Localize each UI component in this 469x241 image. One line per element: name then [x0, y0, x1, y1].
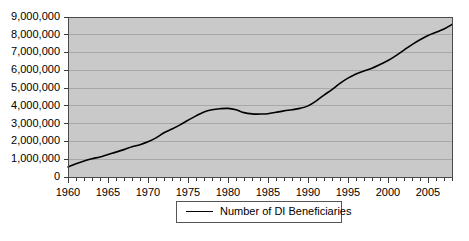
y-tick-label: 3,000,000	[11, 117, 60, 129]
x-tick-label: 2005	[416, 186, 440, 198]
y-tick-label: 5,000,000	[11, 81, 60, 93]
y-tick-label: 4,000,000	[11, 99, 60, 111]
y-tick-label: 2,000,000	[11, 134, 60, 146]
y-tick-label: 0	[54, 170, 60, 182]
y-tick-label: 9,000,000	[11, 10, 60, 22]
y-tick-label: 7,000,000	[11, 45, 60, 57]
di-beneficiaries-line-chart: 01,000,0002,000,0003,000,0004,000,0005,0…	[0, 0, 469, 241]
x-tick-label: 1965	[96, 186, 120, 198]
y-tick-label: 6,000,000	[11, 63, 60, 75]
chart-container: 01,000,0002,000,0003,000,0004,000,0005,0…	[0, 0, 469, 241]
plot-area-background	[68, 17, 452, 177]
x-tick-label: 1975	[176, 186, 200, 198]
legend: Number of DI Beneficiaries	[176, 201, 352, 222]
x-tick-label: 1990	[296, 186, 320, 198]
x-tick-label: 2000	[376, 186, 400, 198]
y-tick-label: 8,000,000	[11, 28, 60, 40]
x-tick-label: 1980	[216, 186, 240, 198]
x-tick-label: 1970	[136, 186, 160, 198]
x-tick-label: 1985	[256, 186, 280, 198]
x-tick-label: 1995	[336, 186, 360, 198]
x-tick-label: 1960	[56, 186, 80, 198]
legend-label-di-beneficiaries: Number of DI Beneficiaries	[220, 205, 352, 217]
y-tick-label: 1,000,000	[11, 152, 60, 164]
